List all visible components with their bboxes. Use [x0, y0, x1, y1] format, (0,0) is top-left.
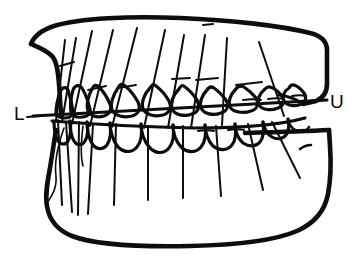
lower-axis-line-8: [216, 126, 221, 196]
hash-mark-lower-groove-2: [228, 129, 244, 130]
lower-axis-line-5: [114, 124, 116, 205]
occlusal-dash-left: [27, 116, 40, 117]
lower-axis-curve-extra-2: [81, 126, 83, 166]
lower-axis-line-1: [58, 120, 62, 205]
hash-mark-6: [236, 82, 262, 85]
hash-mark-molar-groove-3: [292, 95, 306, 96]
hash-mark-molar-groove-1: [243, 99, 261, 100]
hash-mark-molar-groove-2: [268, 98, 284, 99]
lower-arch-label: L: [14, 103, 25, 124]
dental-occlusion-drawing: L U: [0, 0, 358, 262]
dental-diagram-figure: L U: [0, 0, 358, 262]
mandible-ramus-mark: [300, 145, 311, 149]
upper-axis-line-8: [191, 35, 205, 128]
hash-mark-4: [172, 78, 190, 79]
lower-axis-line-3: [78, 122, 79, 215]
hash-mark-7: [203, 24, 213, 25]
upper-arch-label: U: [330, 91, 344, 112]
hash-mark-lower-groove-1: [198, 130, 214, 131]
upper-axis-line-6: [144, 30, 165, 128]
